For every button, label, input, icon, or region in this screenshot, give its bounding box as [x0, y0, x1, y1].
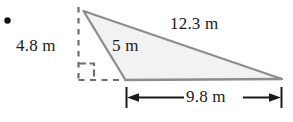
label-hypotenuse: 12.3 m	[170, 15, 218, 32]
arrowhead-left-icon	[127, 93, 139, 102]
figure-canvas	[0, 0, 293, 122]
geometry-figure: 4.8 m 5 m 12.3 m 9.8 m	[0, 0, 293, 122]
right-angle-marker-icon	[79, 64, 94, 80]
label-slant: 5 m	[112, 37, 139, 54]
arrowhead-right-icon	[269, 93, 281, 102]
label-base: 9.8 m	[186, 88, 226, 105]
bullet-point-icon	[4, 17, 10, 23]
label-height: 4.8 m	[16, 37, 56, 54]
